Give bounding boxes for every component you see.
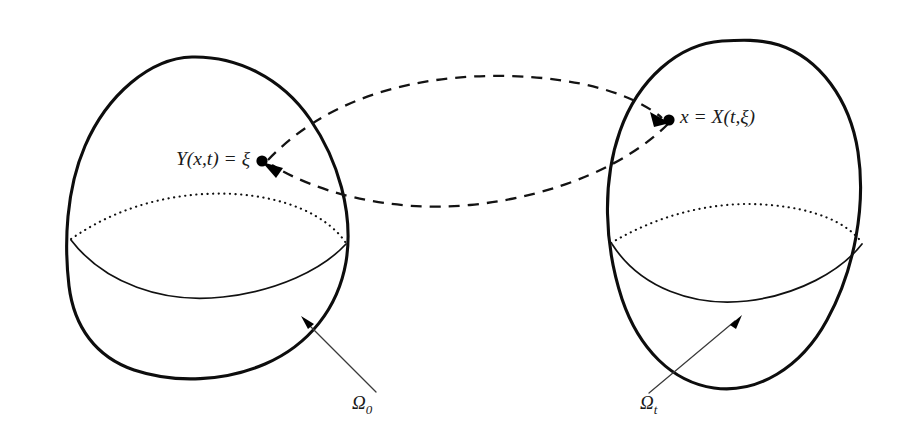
configuration-mapping-diagram: Ω0 Ωt Y(x,t) = ξ (0, 0, 912, 440)
diagram-canvas: Ω0 Ωt Y(x,t) = ξ (0, 0, 912, 440)
omega-t-subscript: t (654, 402, 658, 417)
omega-zero-symbol: Ω (352, 392, 366, 413)
omega-zero-subscript: 0 (366, 402, 373, 417)
xi-point-label: Y(x,t) = ξ (176, 148, 251, 170)
x-point-label: x = X(t,ξ) (679, 106, 755, 128)
omega-t-symbol: Ω (640, 392, 654, 413)
xi-point-dot (256, 155, 267, 166)
x-point-dot (663, 114, 674, 125)
